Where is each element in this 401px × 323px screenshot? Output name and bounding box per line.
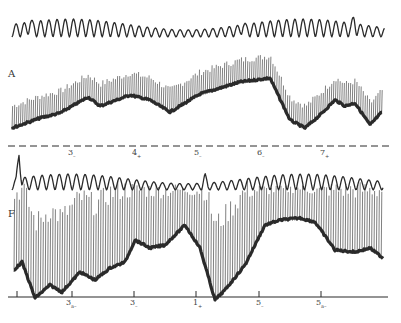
top-marker-3: 6–	[257, 148, 265, 159]
respiration-trace-f	[12, 155, 383, 190]
panel-label-a: A	[8, 68, 15, 79]
blood-pressure-trace-a-pulses	[12, 55, 382, 130]
bottom-marker-1: 3–	[130, 298, 138, 309]
top-marker-4: 7+	[320, 148, 329, 159]
panel-label-f: F	[8, 208, 15, 219]
top-marker-1: 4+	[132, 148, 141, 159]
respiration-trace-a	[12, 17, 384, 37]
top-marker-0: 3–	[68, 148, 76, 159]
bottom-marker-3: 5–	[256, 298, 264, 309]
figure: A F 3–4+5–6–7+ 3a–3–1+5–5a–	[0, 0, 401, 323]
bottom-marker-4: 5a–	[316, 298, 327, 309]
top-marker-2: 5–	[194, 148, 202, 159]
physiological-traces	[0, 0, 401, 323]
bottom-marker-0: 3a–	[66, 298, 77, 309]
bottom-marker-2: 1+	[193, 298, 202, 309]
